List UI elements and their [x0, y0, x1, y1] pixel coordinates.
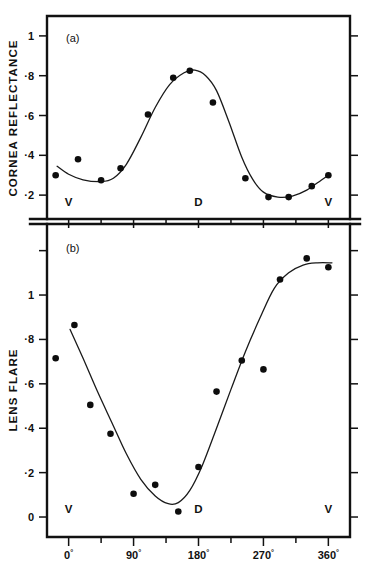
panel-a-datapoint — [98, 177, 105, 184]
panel-b-yticklabels: 0·2·4·6·81 — [24, 289, 35, 523]
panel-a-datapoint — [242, 175, 249, 182]
panel-b-datapoint — [71, 322, 78, 329]
panel-b-marker-d: D — [194, 503, 202, 515]
panel-a: ·2·4·6·81 VDV (a) CORNEA REFLECTANCE — [7, 16, 360, 228]
panel-b-datapoint — [52, 355, 59, 362]
panel-a-datapoint — [187, 67, 194, 74]
panel-b-xticklabels: 0°90°180°270°360° — [64, 548, 339, 561]
panel-b-datapoint — [213, 388, 220, 395]
panel-a-datapoint — [75, 156, 82, 163]
panel-b-yticklabel: ·4 — [24, 422, 35, 434]
panel-b: 0·2·4·6·81 0°90°180°270°360° VDV (b) LEN… — [7, 224, 360, 561]
panel-a-yticklabels: ·2·4·6·81 — [24, 30, 35, 201]
panel-b-label: (b) — [66, 242, 79, 254]
panel-a-datapoints — [52, 67, 331, 200]
panel-a-fit-curve — [57, 70, 330, 197]
panel-a-marker-v: V — [325, 196, 333, 208]
panel-a-marker-v: V — [65, 196, 73, 208]
panel-b-datapoint — [325, 264, 332, 271]
panel-a-label: (a) — [66, 32, 79, 44]
panel-a-datapoint — [308, 183, 315, 190]
panel-b-datapoint — [260, 366, 267, 373]
figure-root: ·2·4·6·81 VDV (a) CORNEA REFLECTANCE 0·2… — [0, 0, 369, 565]
panel-a-datapoint — [210, 99, 217, 106]
panel-a-datapoint — [285, 194, 292, 201]
panel-b-datapoint — [277, 276, 284, 283]
panel-b-xticklabel: 360° — [318, 548, 339, 561]
panel-b-xticks — [69, 537, 329, 546]
panel-a-yticklabel: ·2 — [24, 189, 34, 201]
panel-b-xticklabel: 180° — [188, 548, 209, 561]
panel-b-yticklabel: ·6 — [24, 378, 34, 390]
panel-b-yticklabel: ·2 — [24, 467, 34, 479]
panel-b-annotations: VDV — [65, 503, 333, 515]
panel-a-yticklabel: ·4 — [24, 149, 35, 161]
panel-b-datapoint — [238, 357, 245, 364]
panel-b-datapoint — [130, 490, 137, 497]
panel-b-datapoint — [303, 255, 310, 262]
panel-b-yticklabel: 0 — [28, 511, 34, 523]
panel-a-yticklabel: ·6 — [24, 110, 34, 122]
panel-b-datapoint — [107, 430, 114, 437]
panel-a-axis-title: CORNEA REFLECTANCE — [7, 39, 19, 196]
panel-b-yticklabel: ·8 — [24, 333, 34, 345]
panel-a-yticks — [39, 36, 358, 195]
panel-b-yticklabel: 1 — [28, 289, 34, 301]
panel-b-axis-title: LENS FLARE — [7, 348, 19, 431]
panel-a-annotations: VDV — [65, 196, 333, 208]
panel-b-yticks — [39, 251, 358, 517]
panel-b-xticklabel: 270° — [253, 548, 274, 561]
panel-b-datapoint — [87, 402, 94, 409]
panel-b-xticklabel: 90° — [126, 548, 141, 561]
panel-b-xticklabel: 0° — [64, 548, 73, 561]
panel-a-yticklabel: 1 — [28, 30, 34, 42]
panel-b-datapoint — [195, 464, 202, 471]
panel-a-frame — [47, 16, 350, 219]
panel-a-datapoint — [325, 172, 332, 179]
panel-a-yticklabel: ·8 — [24, 70, 34, 82]
panel-b-marker-v: V — [65, 503, 73, 515]
panel-a-datapoint — [52, 172, 59, 179]
panel-a-datapoint — [145, 111, 152, 118]
panel-a-marker-d: D — [194, 196, 202, 208]
panel-b-marker-v: V — [325, 503, 333, 515]
panel-a-datapoint — [117, 165, 124, 172]
panel-b-datapoint — [152, 482, 159, 489]
panel-b-datapoint — [175, 508, 182, 515]
panel-a-datapoint — [265, 194, 272, 201]
panel-a-datapoint — [170, 74, 177, 81]
